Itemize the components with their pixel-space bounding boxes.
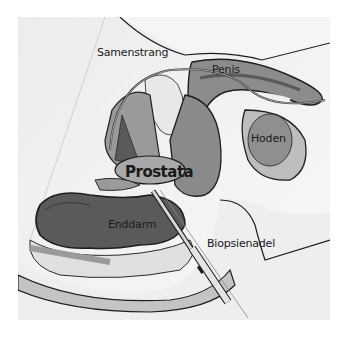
diagram-frame: Samenstrang Penis Hoden Prostata Enddarm…	[18, 17, 330, 320]
label-penis: Penis	[212, 63, 240, 76]
label-prostata: Prostata	[125, 163, 193, 181]
label-samenstrang: Samenstrang	[97, 46, 168, 59]
label-enddarm: Enddarm	[108, 218, 156, 231]
label-hoden: Hoden	[251, 132, 286, 145]
label-biopsienadel: Biopsienadel	[207, 237, 275, 250]
